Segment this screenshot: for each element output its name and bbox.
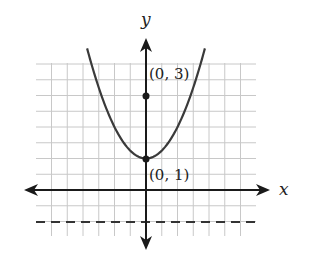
x-axis-label: x <box>279 179 289 199</box>
point-0-1 <box>143 156 150 163</box>
point-0-3 <box>143 93 150 100</box>
point-vertex-label: (0, 1) <box>149 166 189 184</box>
y-axis-label: y <box>140 9 151 29</box>
parabola-graph: y x (0, 3) (0, 1) <box>0 0 309 269</box>
point-top-label: (0, 3) <box>149 65 189 83</box>
